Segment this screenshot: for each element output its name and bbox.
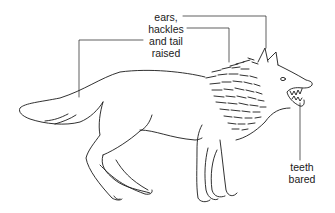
leader-tail — [79, 40, 143, 97]
label-line-2: bared — [284, 173, 320, 185]
label-line-2: hackles — [143, 23, 189, 35]
label-line-3: and tail — [143, 35, 189, 47]
wolf-tail — [19, 70, 205, 124]
label-line-1: teeth — [284, 161, 320, 173]
label-ears-hackles-tail: ears, hackles and tail raised — [143, 11, 189, 59]
leader-hackles — [187, 28, 229, 62]
label-line-4: raised — [143, 47, 189, 59]
wolf-head — [258, 48, 312, 106]
leader-lines — [79, 16, 300, 160]
leader-ears — [183, 16, 266, 48]
wolf-hackles — [206, 58, 266, 130]
label-line-1: ears, — [143, 11, 189, 23]
label-teeth-bared: teeth bared — [284, 161, 320, 185]
